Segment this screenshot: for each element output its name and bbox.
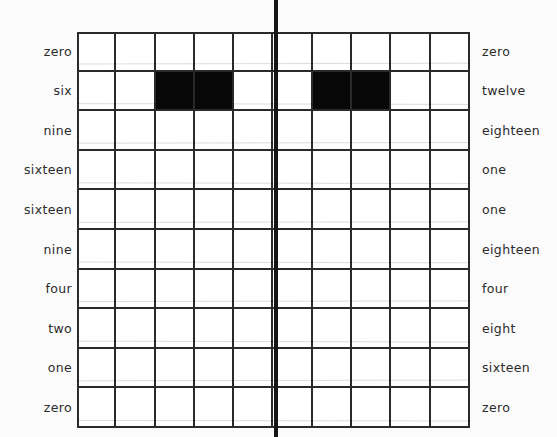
grid-cell-empty[interactable] [156,111,195,151]
grid-cell-empty[interactable] [234,309,273,349]
grid-cell-empty[interactable] [77,270,116,310]
grid-cell-empty[interactable] [352,190,391,230]
grid-cell-empty[interactable] [352,230,391,270]
grid-cell-empty[interactable] [156,388,195,428]
grid-cell-empty[interactable] [234,72,273,112]
grid-cell-empty[interactable] [273,111,312,151]
grid-cell-empty[interactable] [195,349,234,389]
grid-cell-empty[interactable] [234,111,273,151]
grid-cell-empty[interactable] [313,349,352,389]
grid-cell-empty[interactable] [195,270,234,310]
grid-cell-empty[interactable] [273,270,312,310]
grid-cell-empty[interactable] [195,111,234,151]
grid-cell-empty[interactable] [77,309,116,349]
grid-cell-empty[interactable] [195,190,234,230]
grid-cell-empty[interactable] [391,349,430,389]
grid-cell-empty[interactable] [116,230,155,270]
grid-cell-empty[interactable] [234,388,273,428]
grid-cell-empty[interactable] [391,190,430,230]
grid-cell-empty[interactable] [431,190,470,230]
grid-cell-empty[interactable] [313,111,352,151]
grid-cell-empty[interactable] [313,32,352,72]
grid-cell-empty[interactable] [234,190,273,230]
grid-cell-empty[interactable] [431,309,470,349]
grid-cell-empty[interactable] [156,151,195,191]
grid-cell-empty[interactable] [391,388,430,428]
grid-cell-empty[interactable] [431,349,470,389]
grid-cell-empty[interactable] [391,111,430,151]
grid-cell-empty[interactable] [313,309,352,349]
grid-cell-empty[interactable] [313,151,352,191]
grid-cell-empty[interactable] [431,111,470,151]
grid-cell-empty[interactable] [431,230,470,270]
grid-cell-empty[interactable] [391,32,430,72]
grid-cell-filled[interactable] [156,72,195,112]
grid-cell-empty[interactable] [116,72,155,112]
grid-cell-empty[interactable] [116,111,155,151]
grid-cell-empty[interactable] [273,230,312,270]
grid-cell-empty[interactable] [77,151,116,191]
grid-cell-empty[interactable] [195,230,234,270]
grid-cell-empty[interactable] [352,151,391,191]
grid-cell-empty[interactable] [273,151,312,191]
grid-cell-empty[interactable] [313,190,352,230]
grid-cell-empty[interactable] [116,309,155,349]
grid-cell-empty[interactable] [116,151,155,191]
grid-cell-empty[interactable] [313,230,352,270]
grid-cell-empty[interactable] [273,309,312,349]
grid-cell-empty[interactable] [431,32,470,72]
grid-cell-empty[interactable] [431,151,470,191]
grid-cell-empty[interactable] [313,388,352,428]
grid-cell-empty[interactable] [352,388,391,428]
grid-cell-empty[interactable] [195,32,234,72]
grid-cell-empty[interactable] [234,270,273,310]
grid-cell-empty[interactable] [313,270,352,310]
grid-cell-empty[interactable] [195,309,234,349]
grid-cell-filled[interactable] [195,72,234,112]
grid-cell-empty[interactable] [352,309,391,349]
grid-cell-empty[interactable] [431,388,470,428]
grid-cell-empty[interactable] [234,349,273,389]
grid-cell-empty[interactable] [116,349,155,389]
grid-cell-empty[interactable] [234,32,273,72]
grid-cell-empty[interactable] [116,270,155,310]
grid-cell-empty[interactable] [77,388,116,428]
grid-cell-empty[interactable] [116,190,155,230]
grid-cell-empty[interactable] [352,349,391,389]
grid-cell-empty[interactable] [234,230,273,270]
grid-cell-empty[interactable] [156,309,195,349]
grid-cell-empty[interactable] [391,270,430,310]
grid-cell-empty[interactable] [156,349,195,389]
grid-cell-empty[interactable] [431,72,470,112]
grid-cell-empty[interactable] [391,72,430,112]
grid-cell-empty[interactable] [352,270,391,310]
grid-cell-empty[interactable] [391,151,430,191]
grid-cell-empty[interactable] [273,388,312,428]
grid-cell-empty[interactable] [352,111,391,151]
grid-cell-empty[interactable] [234,151,273,191]
grid-cell-filled[interactable] [352,72,391,112]
grid-cell-empty[interactable] [77,111,116,151]
grid-cell-empty[interactable] [156,32,195,72]
grid-cell-empty[interactable] [391,309,430,349]
grid-cell-empty[interactable] [156,190,195,230]
grid-cell-empty[interactable] [195,388,234,428]
grid-cell-empty[interactable] [352,32,391,72]
grid-cell-empty[interactable] [77,190,116,230]
grid-cell-empty[interactable] [431,270,470,310]
grid-cell-empty[interactable] [156,230,195,270]
grid-cell-empty[interactable] [273,32,312,72]
grid-cell-empty[interactable] [391,230,430,270]
grid-cell-empty[interactable] [116,32,155,72]
grid-cell-empty[interactable] [273,349,312,389]
grid-cell-empty[interactable] [77,349,116,389]
grid-cell-empty[interactable] [116,388,155,428]
grid-cell-empty[interactable] [195,151,234,191]
grid-cell-filled[interactable] [313,72,352,112]
grid-cell-empty[interactable] [273,72,312,112]
grid-cell-empty[interactable] [156,270,195,310]
grid-cell-empty[interactable] [273,190,312,230]
grid-cell-empty[interactable] [77,72,116,112]
grid-cell-empty[interactable] [77,230,116,270]
grid-cell-empty[interactable] [77,32,116,72]
